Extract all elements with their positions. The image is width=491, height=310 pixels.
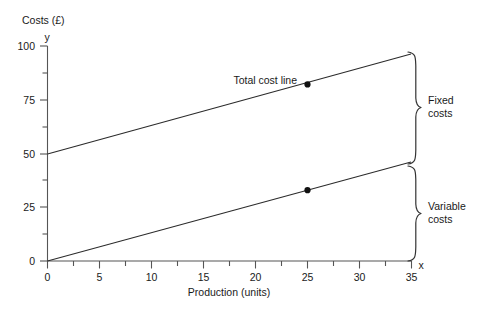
total-cost-line-marker — [304, 81, 310, 87]
variable-cost-line-path — [48, 162, 412, 261]
fixed-costs-brace-icon — [408, 52, 421, 164]
fixed-costs-bracket: Fixed costs — [408, 52, 454, 164]
x-tick-label-30: 30 — [354, 271, 366, 283]
y-tick-label-25: 25 — [23, 201, 35, 213]
x-axis-symbol: x — [418, 259, 424, 271]
x-tick-label-35: 35 — [406, 271, 418, 283]
variable-costs-bracket: Variable costs — [408, 166, 466, 261]
fixed-costs-label-line1: Fixed — [428, 94, 454, 106]
x-tick-label-20: 20 — [250, 271, 262, 283]
y-axis-tick-labels: 100 75 50 25 0 — [17, 40, 35, 267]
x-tick-label-0: 0 — [45, 271, 51, 283]
variable-costs-brace-icon — [408, 166, 421, 261]
x-tick-label-15: 15 — [198, 271, 210, 283]
total-cost-line-label: Total cost line — [233, 74, 297, 86]
x-tick-label-25: 25 — [302, 271, 314, 283]
y-tick-label-100: 100 — [17, 40, 35, 52]
y-tick-label-0: 0 — [29, 255, 35, 267]
y-axis-title: Costs (£) — [22, 14, 65, 26]
fixed-costs-label-line2: costs — [428, 107, 453, 119]
variable-costs-label-line1: Variable — [428, 200, 466, 212]
x-axis-title: Production (units) — [188, 286, 270, 298]
variable-cost-line-marker — [304, 187, 310, 193]
y-axis-symbol: y — [44, 31, 50, 43]
axes-group — [48, 46, 412, 261]
x-axis-ticks — [48, 261, 412, 269]
x-tick-label-5: 5 — [97, 271, 103, 283]
y-tick-label-50: 50 — [23, 148, 35, 160]
x-tick-label-10: 10 — [146, 271, 158, 283]
total-cost-line-path — [48, 54, 412, 154]
series-variable-cost-line — [48, 162, 412, 261]
series-total-cost-line — [48, 54, 412, 154]
x-axis-tick-labels: 0 5 10 15 20 25 30 35 — [45, 271, 418, 283]
y-tick-label-75: 75 — [23, 94, 35, 106]
variable-costs-label-line2: costs — [428, 213, 453, 225]
y-axis-ticks — [40, 46, 48, 261]
cost-behaviour-chart: 100 75 50 25 0 0 5 10 — [0, 0, 491, 310]
chart-canvas: 100 75 50 25 0 0 5 10 — [0, 0, 491, 310]
